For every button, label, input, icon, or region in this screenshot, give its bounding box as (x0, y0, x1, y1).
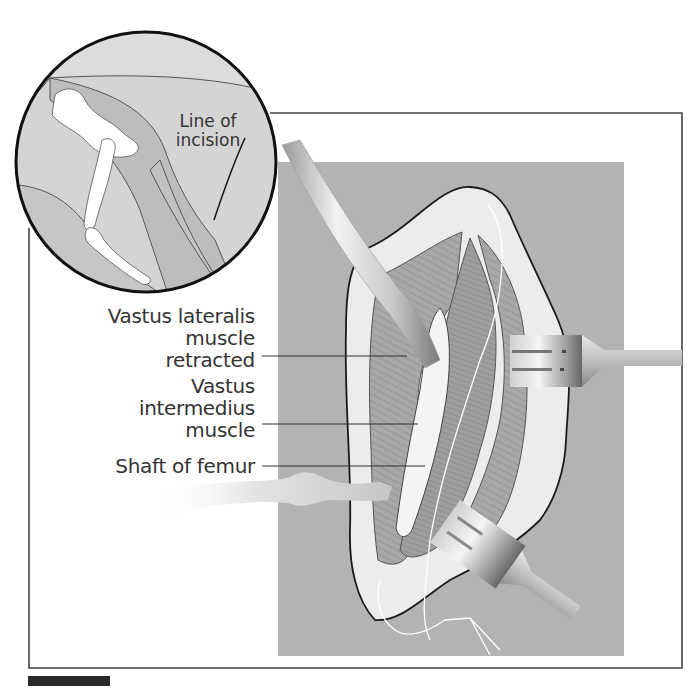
inset-label-line-of-incision: Line of incision (172, 112, 244, 150)
label-vastus-lateralis-line3: retracted (108, 349, 255, 371)
label-vastus-intermedius-line2: intermedius (139, 397, 255, 419)
label-vastus-lateralis: Vastus lateralis muscle retracted (108, 305, 255, 371)
label-vastus-lateralis-line1: Vastus lateralis (108, 305, 255, 327)
label-shaft-of-femur-line1: Shaft of femur (115, 455, 255, 477)
label-vastus-intermedius: Vastus intermedius muscle (139, 375, 255, 441)
figure-tag-bar (28, 676, 110, 686)
inset-overview (0, 32, 290, 300)
label-vastus-intermedius-line3: muscle (139, 419, 255, 441)
inset-label-line1: Line of (172, 112, 244, 131)
label-vastus-intermedius-line1: Vastus (139, 375, 255, 397)
label-shaft-of-femur: Shaft of femur (115, 455, 255, 477)
label-vastus-lateralis-line2: muscle (108, 327, 255, 349)
inset-label-line2: incision (172, 131, 244, 150)
